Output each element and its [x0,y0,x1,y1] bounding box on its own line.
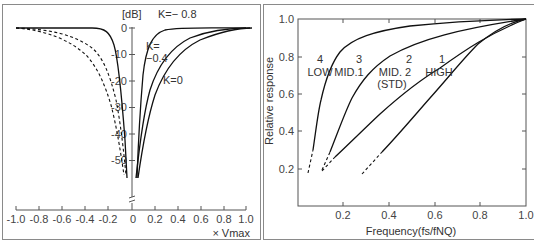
x-tick-label: -0.6 [53,213,72,225]
right-chart: 1.0 0.8 0.6 0.4 0.2 Relative response 0.… [263,13,534,237]
curve-mid2-dashed [322,157,335,171]
y-tick-label: 0 [121,22,127,34]
y-tick-label: 0.4 [279,125,294,137]
curve-high-dashed [362,152,382,174]
right-x-axis-label: Frequency(fs/fNQ) [366,225,456,237]
x-tick-label: 1.0 [238,213,253,225]
x-tick-label: 0.6 [427,209,442,221]
k-0-label: K=0 [163,74,183,86]
curve-2-sublabel: (STD) [377,78,406,90]
charts-canvas: 0 -10 -20 -30 -40 -50 [dB] -1.0 -0.8 -0.… [0,0,535,248]
curve-mid1-dashed [322,152,330,170]
left-x-ticks [16,206,246,210]
curve-4-number: 4 [317,53,323,65]
x-tick-label: 0.8 [216,213,231,225]
curve-1-label: HIGH [425,66,453,78]
x-tick-label: -1.0 [7,213,26,225]
x-tick-label: -0.4 [76,213,95,225]
left-x-axis-label: × Vmax [212,227,250,239]
y-tick-label: 0.6 [279,88,294,100]
x-tick-label: 0.2 [335,209,350,221]
left-chart: 0 -10 -20 -30 -40 -50 [dB] -1.0 -0.8 -0.… [7,8,254,239]
k-minus-0.4-label: K= [146,40,160,52]
curve-2-label: MID. 2 [379,66,411,78]
axis-break-icon [129,196,135,202]
right-y-axis-label: Relative response [263,57,275,145]
curve-1-number: 1 [439,53,445,65]
curve-3-number: 3 [356,53,362,65]
y-tick-label: 0.8 [279,51,294,63]
curve-4-label: LOW [307,66,333,78]
x-tick-label: 1.0 [518,209,533,221]
k-minus-0.4-value: −0.4 [146,52,168,64]
x-tick-label: 0.8 [472,209,487,221]
curve-2-mid2-std [335,19,526,157]
y-tick-label: -10 [111,48,127,60]
x-tick-label: 0.4 [381,209,396,221]
curve-low-dashed [308,150,313,173]
y-tick-label: 1.0 [279,13,294,25]
right-x-ticks [343,19,480,206]
x-tick-label: 0.2 [147,213,162,225]
x-tick-label: -0.2 [99,213,118,225]
left-y-unit-label: [dB] [122,8,142,20]
x-tick-label: -0.8 [30,213,49,225]
curve-k-0-left [16,28,124,175]
y-tick-label: 0.2 [279,163,294,175]
k-minus-0.8-label: K=− 0.8 [158,8,197,20]
curve-2-number: 2 [406,53,412,65]
x-tick-label: 0 [130,213,136,225]
x-tick-label: 0.4 [170,213,185,225]
curve-4-low [313,19,526,150]
curve-3-label: MID.1 [334,66,363,78]
right-plot-frame [298,19,526,206]
x-tick-label: 0.6 [193,213,208,225]
y-tick-label: -30 [111,101,127,113]
